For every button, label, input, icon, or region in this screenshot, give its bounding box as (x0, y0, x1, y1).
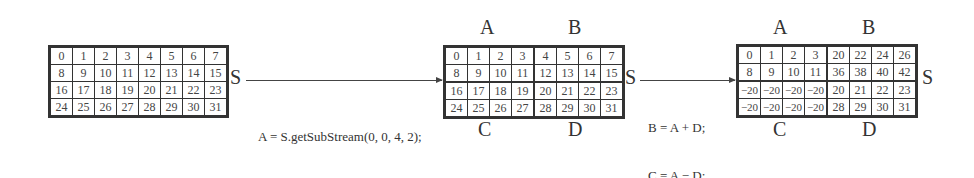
substream-code: A = S.getSubStream(0, 0, 4, 2); B = S.ge… (258, 97, 422, 178)
grid-cell: −20 (783, 99, 805, 116)
grid-cell: 9 (468, 65, 490, 83)
grid-cell: 8 (51, 65, 73, 82)
grid-cell: 28 (139, 99, 161, 116)
grid-cell: −20 (783, 81, 805, 99)
stream-label-s-2: S (625, 66, 636, 89)
grid-cell: 6 (579, 48, 601, 65)
grid-cell: 24 (872, 47, 894, 64)
grid-cell: 29 (557, 100, 579, 117)
grid-cell: 1 (73, 48, 95, 65)
grid-cell: −20 (739, 99, 761, 116)
grid-cell: 3 (117, 48, 139, 65)
grid-cell: 25 (73, 99, 95, 116)
grid-cell: 20 (139, 82, 161, 99)
grid-cell: 8 (446, 65, 468, 83)
grid-cell: 20 (827, 47, 850, 64)
grid-cell: 26 (95, 99, 117, 116)
grid-cell: 11 (805, 64, 828, 82)
grid-cell: 14 (579, 65, 601, 83)
arrow-2 (640, 80, 735, 81)
grid-cell: 42 (894, 64, 916, 82)
grid-cell: −20 (761, 99, 783, 116)
grid-cell: 14 (183, 65, 205, 82)
code-line-c-diff: C = A − D; (648, 168, 705, 178)
grid-cell: 20 (827, 81, 850, 99)
grid-cell: 22 (850, 47, 872, 64)
grid-cell: 36 (827, 64, 850, 82)
grid-cell: 22 (183, 82, 205, 99)
grid-cell: 10 (490, 65, 512, 83)
stream-grid-result: 01232022242689101136384042−20−20−20−2020… (736, 44, 918, 118)
grid-cell: 22 (872, 81, 894, 99)
grid-cell: 8 (739, 64, 761, 82)
grid-cell: 25 (468, 100, 490, 117)
grid-cell: 38 (850, 64, 872, 82)
grid-cell: 10 (95, 65, 117, 82)
grid-cell: 31 (894, 99, 916, 116)
grid-cell: 26 (894, 47, 916, 64)
grid-cell: 9 (761, 64, 783, 82)
grid-cell: −20 (761, 81, 783, 99)
grid-cell: 27 (512, 100, 535, 117)
grid-cell: 0 (446, 48, 468, 65)
grid-cell: 21 (161, 82, 183, 99)
grid-cell: 10 (783, 64, 805, 82)
grid-cell: 1 (468, 48, 490, 65)
quadrant-label-a-2: A (480, 16, 494, 39)
grid-cell: 2 (490, 48, 512, 65)
grid-cell: 7 (205, 48, 227, 65)
grid-cell: 23 (894, 81, 916, 99)
grid-cell: 4 (139, 48, 161, 65)
grid-cell: 30 (579, 100, 601, 117)
grid-cell: 1 (761, 47, 783, 64)
grid-cell: 17 (73, 82, 95, 99)
grid-cell: 23 (205, 82, 227, 99)
grid-cell: 12 (139, 65, 161, 82)
grid-cell: −20 (805, 81, 828, 99)
grid-cell: −20 (805, 99, 828, 116)
grid-cell: 4 (534, 48, 557, 65)
grid-cell: 15 (601, 65, 623, 83)
grid-cell: 31 (205, 99, 227, 116)
grid-cell: 11 (117, 65, 139, 82)
grid-cell: 17 (468, 82, 490, 100)
grid-cell: 3 (805, 47, 828, 64)
arithmetic-code: B = A + D; C = A − D; (648, 88, 705, 178)
grid-cell: 28 (534, 100, 557, 117)
quadrant-label-a-3: A (773, 16, 787, 39)
code-line-b: B = S.getSubStream(4, 0, 4, 2); (258, 177, 422, 178)
grid-cell: 23 (601, 82, 623, 100)
grid-cell: 31 (601, 100, 623, 117)
grid-cell: 24 (446, 100, 468, 117)
grid-cell: 3 (512, 48, 535, 65)
quadrant-label-c-3: C (773, 118, 786, 141)
quadrant-label-b-2: B (568, 16, 581, 39)
grid-cell: 19 (512, 82, 535, 100)
grid-cell: 6 (183, 48, 205, 65)
grid-cell: 12 (534, 65, 557, 83)
stream-label-s-3: S (922, 66, 933, 89)
grid-cell: 7 (601, 48, 623, 65)
quadrant-label-c-2: C (478, 118, 491, 141)
grid-cell: 22 (579, 82, 601, 100)
grid-cell: 0 (51, 48, 73, 65)
stream-grid-partitioned: 0123456789101112131415161718192021222324… (443, 45, 625, 119)
grid-cell: 24 (51, 99, 73, 116)
grid-cell: 16 (51, 82, 73, 99)
grid-cell: 18 (490, 82, 512, 100)
quadrant-label-b-3: B (862, 16, 875, 39)
grid-cell: −20 (739, 81, 761, 99)
grid-cell: 5 (161, 48, 183, 65)
grid-cell: 27 (117, 99, 139, 116)
grid-cell: 15 (205, 65, 227, 82)
grid-cell: 30 (872, 99, 894, 116)
grid-cell: 28 (827, 99, 850, 116)
stream-label-s-1: S (230, 66, 241, 89)
grid-cell: 20 (534, 82, 557, 100)
grid-cell: 13 (557, 65, 579, 83)
grid-cell: 2 (783, 47, 805, 64)
grid-cell: 26 (490, 100, 512, 117)
grid-cell: 29 (161, 99, 183, 116)
grid-cell: 21 (557, 82, 579, 100)
quadrant-label-d-3: D (862, 118, 876, 141)
